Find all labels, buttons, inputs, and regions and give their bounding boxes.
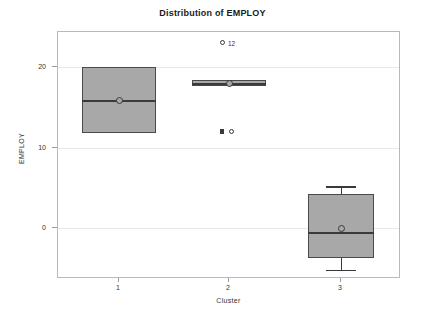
outlier-label: 12 — [228, 39, 235, 46]
outlier-marker — [220, 129, 224, 134]
gridline — [58, 148, 399, 149]
x-axis-tick-mark — [340, 278, 341, 282]
y-axis-tick-label: 10 — [24, 143, 46, 150]
whisker-lower — [341, 258, 342, 270]
mean-marker — [226, 80, 233, 87]
chart-title: Distribution of EMPLOY — [0, 8, 425, 18]
x-axis-title: Cluster — [57, 297, 400, 304]
outlier-marker — [229, 129, 234, 134]
x-axis-tick-label: 1 — [103, 284, 133, 291]
whisker-cap-upper — [326, 186, 356, 187]
x-axis-tick-mark — [228, 278, 229, 282]
x-axis-tick-label: 2 — [213, 284, 243, 291]
mean-marker — [338, 225, 345, 232]
median-line — [308, 232, 374, 234]
y-axis-tick-label: 20 — [24, 63, 46, 70]
y-axis-tick-label: 0 — [24, 224, 46, 231]
mean-marker — [116, 97, 123, 104]
outlier-marker — [220, 40, 225, 45]
plot-area: 12 — [57, 31, 400, 278]
x-axis-tick-label: 3 — [325, 284, 355, 291]
whisker-cap-lower — [326, 270, 356, 271]
boxplot-screenshot: Distribution of EMPLOY EMPLOY 20100 12 1… — [0, 0, 425, 325]
x-axis-tick-mark — [118, 278, 119, 282]
